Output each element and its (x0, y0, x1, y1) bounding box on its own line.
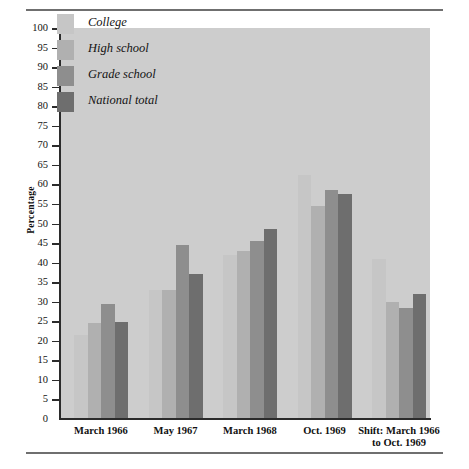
y-tick: 10 (0, 380, 61, 381)
bar (88, 323, 102, 419)
bar-chart-figure: 1009590858075706560555045403530252015105… (0, 0, 469, 469)
y-tick-mark (52, 282, 61, 284)
bar (325, 190, 339, 419)
y-tick-label: 30 (38, 296, 49, 307)
y-tick-label: 5 (43, 393, 48, 404)
y-tick-label: 65 (38, 159, 49, 170)
y-tick-label: 20 (38, 335, 49, 346)
y-tick-mark (52, 204, 61, 206)
legend-swatch (57, 40, 74, 60)
y-tick: 70 (0, 145, 61, 146)
bottom-rule (26, 452, 443, 454)
legend-swatch (57, 14, 74, 34)
bar (223, 255, 237, 419)
y-tick-label: 15 (38, 354, 49, 365)
bar (149, 290, 163, 419)
bar (162, 290, 176, 419)
y-tick-mark (52, 360, 61, 362)
y-tick-label: 75 (38, 120, 49, 131)
y-axis-title: Percentage (26, 165, 36, 255)
y-tick-label: 85 (38, 81, 49, 92)
y-tick-mark (52, 165, 61, 167)
legend-swatch (57, 66, 74, 86)
bar (101, 304, 115, 419)
y-tick: 0 (0, 419, 61, 420)
y-tick-label: 10 (38, 374, 49, 385)
bar (189, 274, 203, 419)
bar (413, 294, 427, 419)
y-tick-label: 0 (43, 413, 48, 424)
legend-item: High school (57, 38, 257, 64)
legend-item: College (57, 12, 257, 38)
legend-label: Grade school (88, 67, 156, 82)
legend-swatch (57, 92, 74, 112)
y-tick-label: 35 (38, 276, 49, 287)
y-tick: 20 (0, 341, 61, 342)
y-tick: 40 (0, 263, 61, 264)
y-tick-label: 80 (38, 100, 49, 111)
bar (237, 251, 251, 419)
y-tick-label: 95 (38, 42, 49, 53)
legend-label: National total (88, 93, 158, 108)
y-tick: 25 (0, 321, 61, 322)
bar (338, 194, 352, 419)
y-tick: 75 (0, 126, 61, 127)
x-axis-label-line: to Oct. 1969 (334, 437, 464, 449)
y-tick: 15 (0, 360, 61, 361)
y-tick-label: 25 (38, 315, 49, 326)
y-tick-mark (52, 224, 61, 226)
bar (250, 241, 264, 419)
y-tick-mark (52, 243, 61, 245)
y-tick-label: 40 (38, 257, 49, 268)
y-tick-mark (52, 380, 61, 382)
y-tick: 35 (0, 282, 61, 283)
y-tick-mark (52, 321, 61, 323)
y-tick-label: 70 (38, 139, 49, 150)
bar (74, 335, 88, 419)
bar (399, 308, 413, 419)
y-tick: 5 (0, 399, 61, 400)
bar (115, 322, 129, 419)
y-tick: 85 (0, 87, 61, 88)
y-tick-label: 100 (32, 22, 48, 33)
legend-label: College (88, 15, 127, 30)
y-tick: 80 (0, 106, 61, 107)
legend-label: High school (88, 41, 149, 56)
chart-legend: CollegeHigh schoolGrade schoolNational t… (57, 12, 257, 116)
y-tick: 90 (0, 67, 61, 68)
y-tick-label: 55 (38, 198, 49, 209)
bar (311, 206, 325, 419)
y-tick-mark (52, 184, 61, 186)
bar (264, 229, 278, 419)
y-tick-mark (52, 126, 61, 128)
bar (298, 175, 312, 419)
x-axis-label-line: Shift: March 1966 (334, 425, 464, 437)
y-tick-label: 60 (38, 178, 49, 189)
bar (372, 259, 386, 419)
y-tick-label: 50 (38, 218, 49, 229)
bar (386, 302, 400, 419)
legend-item: National total (57, 90, 257, 116)
y-tick: 100 (0, 28, 61, 29)
y-tick-mark (52, 341, 61, 343)
top-rule (26, 9, 443, 11)
legend-item: Grade school (57, 64, 257, 90)
y-tick-mark (52, 399, 61, 401)
y-tick-label: 45 (38, 237, 49, 248)
y-tick-mark (52, 263, 61, 265)
y-tick-mark (52, 302, 61, 304)
y-tick-mark (52, 145, 61, 147)
x-axis-line (59, 418, 431, 420)
bar (176, 245, 190, 419)
y-tick: 30 (0, 302, 61, 303)
y-tick: 95 (0, 48, 61, 49)
x-axis-label: Shift: March 1966to Oct. 1969 (334, 425, 464, 449)
y-tick-label: 90 (38, 61, 49, 72)
